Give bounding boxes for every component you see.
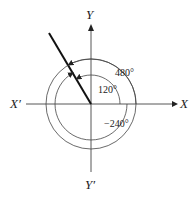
x-axis-arrow-icon <box>172 101 178 107</box>
y-prime-axis-label: Y′ <box>85 178 95 191</box>
x-prime-axis-label: X′ <box>10 97 21 110</box>
terminal-ray <box>49 33 91 104</box>
y-axis-label: Y <box>86 8 93 21</box>
angle-diagram <box>0 0 196 198</box>
angle-label-neg-240: −240° <box>104 119 129 129</box>
angle-label-480: 480° <box>115 68 134 78</box>
y-axis-arrow-icon <box>88 24 94 31</box>
angle-label-120: 120° <box>98 85 117 95</box>
x-axis-label: X <box>180 97 188 110</box>
